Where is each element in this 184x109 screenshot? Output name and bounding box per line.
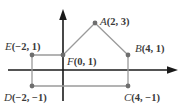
- point-letter-d: D: [4, 91, 12, 103]
- y-axis-arrowhead: [59, 9, 67, 20]
- vertex-dot-e: [30, 53, 35, 58]
- point-label-e: E(−2, 1): [5, 40, 40, 53]
- point-label-c: C(4, −1): [124, 91, 160, 104]
- point-coords-f: (0, 1): [74, 56, 97, 67]
- vertex-dot-d: [30, 84, 35, 89]
- point-label-b: B(4, 1): [135, 42, 164, 55]
- vertex-dot-c: [126, 84, 131, 89]
- point-letter-f: F: [67, 55, 74, 67]
- point-coords-b: (4, 1): [142, 43, 165, 54]
- point-label-d: D(−2, −1): [4, 91, 47, 104]
- point-coords-e: (−2, 1): [12, 41, 41, 52]
- vertex-dot-a: [93, 21, 98, 26]
- point-label-a: A(2, 3): [100, 15, 129, 28]
- coordinate-plane-figure: A(2, 3) B(4, 1) C(4, −1) D(−2, −1) E(−2,…: [0, 0, 184, 109]
- point-letter-e: E: [5, 40, 12, 52]
- point-coords-c: (4, −1): [131, 92, 160, 103]
- x-axis-arrowhead: [167, 66, 178, 74]
- point-label-f: F(0, 1): [67, 55, 96, 68]
- point-coords-d: (−2, −1): [12, 92, 47, 103]
- point-letter-b: B: [135, 42, 142, 54]
- point-letter-a: A: [100, 15, 107, 27]
- vertex-dot-b: [126, 53, 131, 58]
- vertex-dot-f: [61, 53, 66, 58]
- point-coords-a: (2, 3): [107, 16, 130, 27]
